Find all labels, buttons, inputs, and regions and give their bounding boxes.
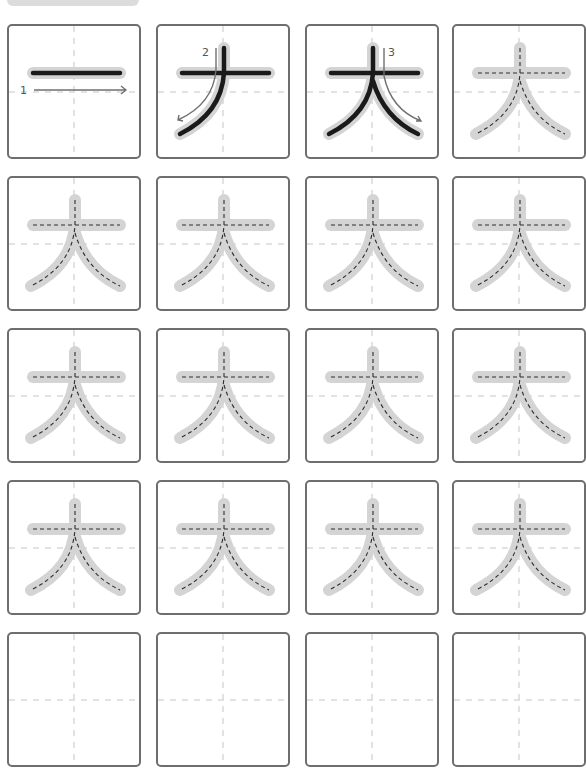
blank-practice-cell[interactable] xyxy=(305,632,439,767)
blank-practice-cell[interactable] xyxy=(156,632,290,767)
tracing-glyph xyxy=(158,178,288,309)
stroke-order-cell-3: 3 xyxy=(305,24,439,159)
stroke-order-glyph: 3 xyxy=(307,26,437,157)
tracing-glyph xyxy=(307,178,437,309)
tracing-glyph xyxy=(454,26,584,157)
tracing-cell[interactable] xyxy=(7,480,141,615)
stroke-order-cell-1: 1 xyxy=(7,24,141,159)
tracing-cell[interactable] xyxy=(452,480,586,615)
stroke-order-glyph: 2 xyxy=(158,26,288,157)
blank-practice-cell[interactable] xyxy=(452,632,586,767)
svg-text:3: 3 xyxy=(388,46,395,59)
guide-lines xyxy=(158,634,288,765)
tracing-glyph xyxy=(307,330,437,461)
tracing-glyph xyxy=(9,178,139,309)
tracing-glyph xyxy=(454,178,584,309)
tracing-cell[interactable] xyxy=(156,176,290,311)
guide-lines xyxy=(9,634,139,765)
tracing-glyph xyxy=(9,482,139,613)
stroke-order-cell-2: 2 xyxy=(156,24,290,159)
tracing-cell[interactable] xyxy=(305,480,439,615)
tracing-glyph xyxy=(307,482,437,613)
tracing-glyph xyxy=(158,482,288,613)
tracing-glyph xyxy=(9,330,139,461)
tracing-cell[interactable] xyxy=(452,24,586,159)
header-bar xyxy=(7,0,139,6)
svg-text:2: 2 xyxy=(202,46,209,59)
tracing-glyph xyxy=(454,330,584,461)
tracing-cell[interactable] xyxy=(452,176,586,311)
stroke-order-glyph: 1 xyxy=(9,26,139,157)
tracing-glyph xyxy=(454,482,584,613)
tracing-cell[interactable] xyxy=(7,328,141,463)
tracing-glyph xyxy=(158,330,288,461)
tracing-cell[interactable] xyxy=(156,328,290,463)
tracing-cell[interactable] xyxy=(156,480,290,615)
tracing-cell[interactable] xyxy=(305,328,439,463)
blank-practice-cell[interactable] xyxy=(7,632,141,767)
tracing-cell[interactable] xyxy=(305,176,439,311)
tracing-cell[interactable] xyxy=(452,328,586,463)
guide-lines xyxy=(307,634,437,765)
tracing-cell[interactable] xyxy=(7,176,141,311)
guide-lines xyxy=(454,634,584,765)
svg-text:1: 1 xyxy=(20,84,27,97)
